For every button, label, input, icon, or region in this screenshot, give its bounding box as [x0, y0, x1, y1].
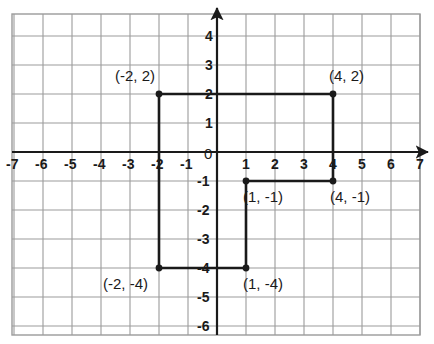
y-tick-label: -2	[197, 203, 209, 217]
vertex-point	[243, 265, 250, 272]
vertex-point	[156, 91, 163, 98]
vertex-point	[330, 91, 337, 98]
x-tick-label: -3	[122, 157, 134, 171]
x-tick-label: 6	[387, 157, 395, 171]
point-coordinate-label: (-2, -4)	[103, 276, 148, 291]
coordinate-grid-svg	[0, 0, 434, 344]
x-tick-label: 3	[300, 157, 308, 171]
y-tick-label: 2	[205, 87, 213, 101]
y-tick-label: -1	[197, 174, 209, 188]
x-tick-label: -6	[35, 157, 47, 171]
x-tick-label: 4	[329, 157, 337, 171]
x-tick-label: 7	[416, 157, 424, 171]
point-coordinate-label: (1, -1)	[243, 189, 283, 204]
y-tick-label: -6	[197, 319, 209, 333]
x-tick-label: 2	[271, 157, 279, 171]
point-coordinate-label: (-2, 2)	[115, 68, 155, 83]
point-coordinate-label: (4, -1)	[330, 189, 370, 204]
y-tick-label: 3	[205, 58, 213, 72]
y-tick-label: -5	[197, 290, 209, 304]
x-tick-label: -1	[180, 157, 192, 171]
x-tick-label: -7	[6, 157, 18, 171]
point-coordinate-label: (1, -4)	[243, 276, 283, 291]
y-tick-label: -3	[197, 232, 209, 246]
point-coordinate-label: (4, 2)	[329, 68, 364, 83]
x-tick-label: -5	[64, 157, 76, 171]
x-tick-label: -4	[93, 157, 105, 171]
x-tick-label: -2	[151, 157, 163, 171]
y-tick-label: 4	[205, 29, 213, 43]
origin-label: 0	[204, 146, 212, 161]
x-tick-label: 5	[358, 157, 366, 171]
coordinate-plane-figure: -7-6-5-4-3-2-112345674321-1-2-3-4-5-60 (…	[0, 0, 434, 344]
x-tick-label: 1	[242, 157, 250, 171]
y-tick-label: -4	[197, 261, 209, 275]
vertex-point	[330, 178, 337, 185]
vertex-point	[243, 178, 250, 185]
y-tick-label: 1	[205, 116, 213, 130]
vertex-point	[156, 265, 163, 272]
